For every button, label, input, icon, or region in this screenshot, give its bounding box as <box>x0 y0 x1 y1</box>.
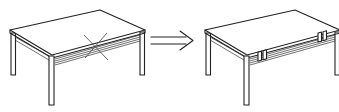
table-leg-front <box>244 56 249 105</box>
table-top <box>10 10 145 55</box>
diagram-canvas: Table without rail connectors (incorrect… <box>0 0 339 112</box>
table-leg-back-right <box>140 32 145 75</box>
table-leg-left <box>206 33 211 75</box>
table-leg-back-right <box>335 32 339 75</box>
arrow-right-icon <box>151 31 193 50</box>
table-before <box>10 10 145 105</box>
table-leg-front <box>49 56 54 105</box>
table-after <box>205 10 339 105</box>
table-leg-left <box>11 33 16 75</box>
